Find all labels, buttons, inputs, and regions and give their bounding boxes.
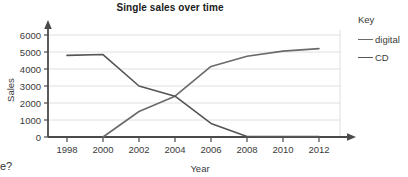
y-tick-label-4000: 4000 <box>20 64 41 75</box>
legend-title: Key <box>358 14 408 25</box>
x-tick-label-2006: 2006 <box>200 144 221 155</box>
x-tick-label-2010: 2010 <box>272 144 293 155</box>
x-axis-title: Year <box>190 163 209 174</box>
gridlines <box>48 35 340 120</box>
line-chart-plot: 6000 5000 4000 3000 2000 1000 0 1998 200… <box>0 0 408 177</box>
legend: Key digital CD <box>358 14 408 68</box>
y-axis-arrow <box>44 20 52 29</box>
legend-label-cd: CD <box>375 52 389 63</box>
x-tick-label-2004: 2004 <box>164 144 185 155</box>
x-tick-label-2002: 2002 <box>128 144 149 155</box>
y-axis-title: Sales <box>5 78 16 102</box>
y-tick-label-3000: 3000 <box>20 81 41 92</box>
legend-item-cd: CD <box>358 50 408 65</box>
legend-item-digital: digital <box>358 32 408 47</box>
x-tick-label-2012: 2012 <box>308 144 329 155</box>
y-tick-label-0: 0 <box>36 132 41 143</box>
legend-label-digital: digital <box>375 34 400 45</box>
y-tick-label-5000: 5000 <box>20 47 41 58</box>
y-tick-label-2000: 2000 <box>20 98 41 109</box>
legend-swatch-cd <box>358 57 373 58</box>
y-tick-label-6000: 6000 <box>20 30 41 41</box>
x-tick-label-2000: 2000 <box>92 144 113 155</box>
y-tick-label-1000: 1000 <box>20 115 41 126</box>
legend-swatch-digital <box>358 39 373 40</box>
x-axis-arrow <box>347 133 356 141</box>
chart-screenshot: Single sales over time <box>0 0 408 177</box>
x-tick-label-1998: 1998 <box>56 144 77 155</box>
series-line-cd <box>67 55 319 137</box>
page-fragment-text: e? <box>0 160 12 172</box>
x-tick-label-2008: 2008 <box>236 144 257 155</box>
